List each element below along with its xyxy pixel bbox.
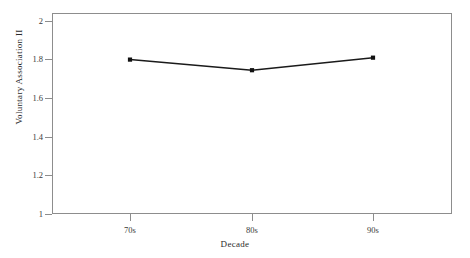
x-axis-tick-label: 80s bbox=[232, 225, 272, 235]
y-axis-tick bbox=[45, 59, 52, 60]
y-axis-tick-label: 1 bbox=[10, 209, 43, 219]
y-axis-tick bbox=[45, 21, 52, 22]
x-axis-tick bbox=[373, 214, 374, 221]
x-axis-tick bbox=[130, 214, 131, 221]
x-axis-tick bbox=[252, 214, 253, 221]
y-axis-tick bbox=[45, 137, 52, 138]
y-axis-tick-label: 1.2 bbox=[10, 170, 43, 180]
plot-area-frame bbox=[52, 13, 452, 214]
x-axis-tick-label: 90s bbox=[353, 225, 393, 235]
y-axis-tick bbox=[45, 214, 52, 215]
x-axis-title: Decade bbox=[0, 239, 470, 249]
y-axis-title: Voluntary Association II bbox=[14, 17, 24, 137]
line-chart: 2 1.8 1.6 1.4 1.2 1 70s 80s 90s Decade V… bbox=[0, 0, 470, 258]
y-axis-tick bbox=[45, 175, 52, 176]
y-axis-tick bbox=[45, 98, 52, 99]
x-axis-tick-label: 70s bbox=[110, 225, 150, 235]
